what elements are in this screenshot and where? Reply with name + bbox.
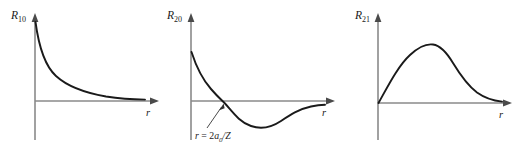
y-axis-label-r21: R21 [354, 9, 370, 24]
plot-panel-r21: R21 r [354, 0, 531, 155]
node-annotation-r20: r = 2a0/Z [195, 130, 231, 144]
plot-panel-r10: R10 r [0, 0, 177, 155]
curve-r21 [379, 44, 503, 103]
radial-wavefunction-figure: R10 r R20 r r = 2a0/Z [0, 0, 531, 155]
x-axis-label-r20: r [322, 107, 327, 118]
curve-r10 [36, 22, 146, 100]
node-leader-arrowhead-r20 [219, 104, 224, 111]
y-axis-arrowhead-r20 [188, 13, 195, 22]
x-axis-label-r21: r [499, 109, 504, 120]
x-axis-arrowhead-r21 [503, 100, 512, 107]
y-axis-arrowhead-r21 [375, 13, 382, 22]
y-axis-arrowhead-r10 [32, 13, 39, 22]
curve-r20 [192, 52, 326, 128]
plot-panel-r20: R20 r r = 2a0/Z [177, 0, 354, 155]
x-axis-arrowhead-r10 [150, 98, 159, 105]
y-axis-label-r10: R10 [10, 9, 26, 24]
x-axis-arrowhead-r20 [326, 98, 335, 105]
x-axis-label-r10: r [146, 107, 151, 118]
